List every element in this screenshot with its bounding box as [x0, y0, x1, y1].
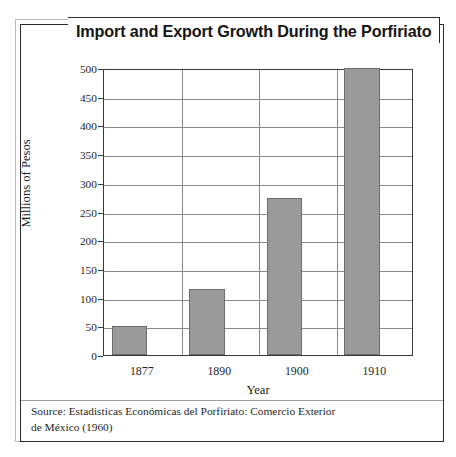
- source-note-line-1: Source: Estadisticas Económicas del Porf…: [31, 404, 431, 420]
- source-note-line-2: de México (1960): [31, 420, 431, 436]
- page-header-text: THE PORFIRIATO: ORDER AND PROGRESS: [196, 0, 415, 2]
- page-header-sliver: THE PORFIRIATO: ORDER AND PROGRESS: [0, 0, 456, 9]
- chart-title: Import and Export Growth During the Porf…: [68, 17, 440, 43]
- source-divider: [21, 400, 443, 401]
- figure-inner-frame: [20, 24, 444, 442]
- source-note: Source: Estadisticas Económicas del Porf…: [31, 404, 431, 435]
